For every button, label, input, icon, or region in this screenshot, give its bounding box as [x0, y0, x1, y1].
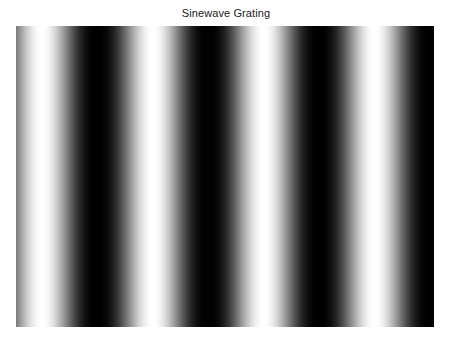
figure-title: Sinewave Grating	[0, 7, 452, 19]
grating-field	[16, 26, 434, 327]
grating-svg	[16, 26, 434, 327]
figure: Sinewave Grating	[0, 0, 452, 343]
grating-image	[16, 26, 434, 327]
